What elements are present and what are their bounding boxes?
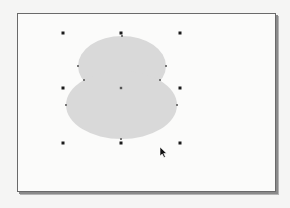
resize-handle-middle-left[interactable] [62,87,65,90]
path-node[interactable] [65,104,67,106]
resize-handle-top-center[interactable] [120,32,123,35]
mouse-cursor-icon [160,147,167,158]
lower-ellipse[interactable] [66,71,177,139]
rotation-center-marker[interactable] [120,87,122,89]
path-node[interactable] [176,104,178,106]
drawing-stage[interactable] [0,0,290,208]
resize-handle-bottom-left[interactable] [62,142,65,145]
resize-handle-top-right[interactable] [179,32,182,35]
resize-handle-bottom-center[interactable] [120,142,123,145]
resize-handle-bottom-right[interactable] [179,142,182,145]
path-node[interactable] [120,138,122,140]
resize-handle-middle-right[interactable] [179,87,182,90]
path-node[interactable] [165,65,167,67]
path-node[interactable] [159,79,161,81]
resize-handle-top-left[interactable] [62,32,65,35]
path-node[interactable] [77,65,79,67]
path-node[interactable] [121,35,123,37]
path-node[interactable] [83,79,85,81]
